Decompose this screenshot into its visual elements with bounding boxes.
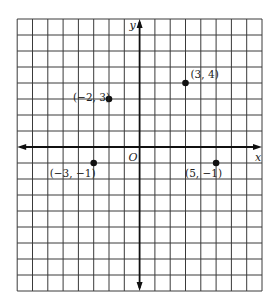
point-label: (5, −1)	[185, 167, 222, 179]
x-axis-arrow-left-icon	[17, 144, 26, 150]
point-label: (3, 4)	[191, 68, 219, 80]
y-axis-arrow-up-icon	[137, 19, 143, 28]
point-5-neg1	[213, 160, 220, 167]
x-axis-arrow-right-icon	[253, 144, 262, 150]
origin-label: O	[129, 151, 138, 164]
axes: x y O	[17, 19, 262, 291]
coordinate-plane: x y O (−2, 3) (3, 4) (−3, −1) (5, −1)	[0, 0, 274, 304]
point-label: (−3, −1)	[50, 167, 96, 179]
point-neg3-neg1	[90, 160, 97, 167]
point-3-4	[182, 80, 189, 87]
x-axis-label: x	[255, 151, 262, 164]
y-axis-arrow-down-icon	[137, 282, 143, 291]
point-label: (−2, 3)	[73, 91, 110, 103]
y-axis-label: y	[129, 19, 137, 32]
